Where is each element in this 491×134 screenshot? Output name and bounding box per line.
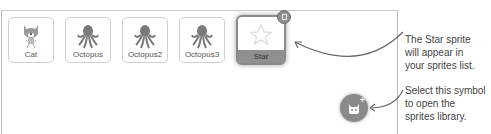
note-line: will appear in xyxy=(405,46,474,59)
note-line: The Star sprite xyxy=(405,33,474,46)
note-line: Select this symbol xyxy=(405,84,486,97)
note-line: sprites library. xyxy=(405,110,486,123)
note-line: to open the xyxy=(405,97,486,110)
star-sprite-note: The Star sprite will appear in your spri… xyxy=(405,33,474,72)
note-line: your sprites list. xyxy=(405,59,474,72)
library-note: Select this symbol to open the sprites l… xyxy=(405,84,486,123)
